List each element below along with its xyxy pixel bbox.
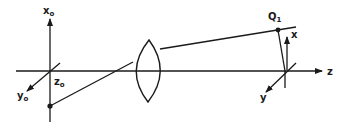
image-x-label: x [291, 29, 298, 40]
image-point-drop-line [278, 30, 285, 71]
image-point-label: Q1 [268, 11, 282, 24]
image-y-axis [266, 63, 296, 92]
image-y-label: y [260, 92, 267, 103]
object-y-label: yo [17, 90, 29, 103]
image-z-label: z [327, 66, 333, 77]
optics-diagram: xo zo yo Q1 x z y [0, 0, 352, 131]
object-x-label: xo [43, 5, 54, 18]
ray-lens-to-image [160, 27, 296, 49]
diagram-svg: xo zo yo Q1 x z y [0, 0, 352, 131]
object-z-label: zo [54, 76, 65, 89]
